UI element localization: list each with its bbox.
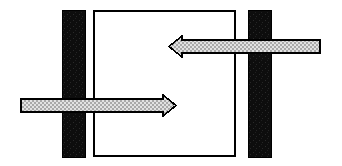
right-black-bar	[248, 10, 271, 157]
center-open-box	[94, 11, 235, 156]
diagram-svg	[0, 0, 342, 166]
figure-canvas	[0, 0, 342, 166]
left-black-bar	[62, 10, 85, 157]
